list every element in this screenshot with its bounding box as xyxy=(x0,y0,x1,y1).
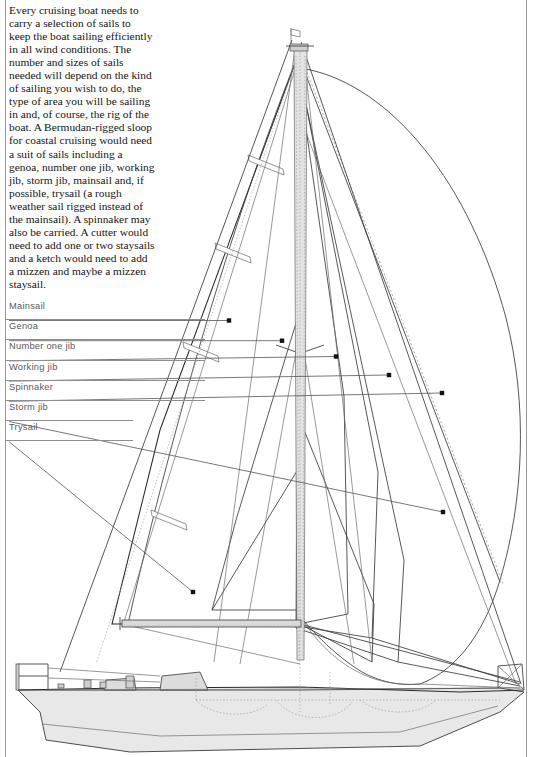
masthead-crane xyxy=(290,44,308,51)
trysail-tack-line xyxy=(212,466,300,610)
coachroof xyxy=(160,672,208,690)
deck-cleat xyxy=(58,684,64,688)
spinnaker-guy xyxy=(304,70,500,582)
lifelines xyxy=(48,668,160,676)
intro-paragraph: Every cruising boat needs to carry a sel… xyxy=(9,4,155,291)
backstay xyxy=(301,42,521,684)
batten-upper-mid xyxy=(215,243,251,263)
legend-row-mainsail[interactable]: Mainsail xyxy=(5,300,205,320)
lifelines-lower xyxy=(48,678,160,682)
genoa-outline xyxy=(296,72,404,662)
legend-label: Mainsail xyxy=(9,301,45,311)
leader-dot-mainsail xyxy=(227,318,231,322)
winch-fitting-1 xyxy=(84,680,91,688)
legend-row-spinnaker[interactable]: Spinnaker xyxy=(5,381,205,401)
bow-pulpit-post xyxy=(16,664,19,690)
hull-profile xyxy=(18,688,524,752)
boom-vang xyxy=(122,624,300,664)
leader-dot-number-one-jib xyxy=(334,354,338,358)
leader-dot-storm-jib xyxy=(441,510,445,514)
intro-paragraph-text: Every cruising boat needs to carry a sel… xyxy=(9,4,155,291)
legend-label: Storm jib xyxy=(9,402,48,412)
spreader-stbd xyxy=(304,345,324,352)
legend-row-trysail[interactable]: Trysail xyxy=(5,421,205,441)
legend-row-storm-jib[interactable]: Storm jib xyxy=(5,401,205,421)
leader-dot-working-jib xyxy=(387,373,391,377)
spinnaker-guy-shadow xyxy=(307,72,503,584)
leader-dot-trysail xyxy=(191,590,195,594)
diagram-page: Every cruising boat needs to carry a sel… xyxy=(0,0,534,757)
sail-label-list: MainsailGenoaNumber one jibWorking jibSp… xyxy=(5,300,205,441)
trysail-outline xyxy=(212,310,300,610)
running-backstay xyxy=(302,122,516,684)
legend-label: Genoa xyxy=(9,321,38,331)
deck-vent xyxy=(126,676,134,688)
legend-row-number-one-jib[interactable]: Number one jib xyxy=(5,340,205,360)
spreader-port xyxy=(276,345,296,352)
batten-lower xyxy=(151,510,187,530)
storm-jib-outline xyxy=(300,420,374,662)
shroud-lower-stbd xyxy=(304,352,354,664)
legend-row-genoa[interactable]: Genoa xyxy=(5,320,205,340)
spinnaker-outline xyxy=(300,69,520,685)
legend-label: Trysail xyxy=(9,422,38,432)
winch-fitting-2 xyxy=(100,682,106,688)
legend-label: Spinnaker xyxy=(9,382,53,392)
bow-pulpit xyxy=(18,664,48,690)
spinnaker-foot-curve xyxy=(300,616,420,684)
mainsheet xyxy=(300,624,520,682)
legend-row-working-jib[interactable]: Working jib xyxy=(5,361,205,381)
legend-rule xyxy=(5,440,133,441)
wind-vane-burgee-icon xyxy=(291,29,300,37)
spinnaker-sheet xyxy=(420,684,520,688)
legend-label: Working jib xyxy=(9,362,58,372)
shroud-upper-port xyxy=(214,48,295,662)
leader-dot-spinnaker xyxy=(440,391,444,395)
legend-label: Number one jib xyxy=(9,341,76,351)
leader-dot-genoa xyxy=(280,339,284,343)
